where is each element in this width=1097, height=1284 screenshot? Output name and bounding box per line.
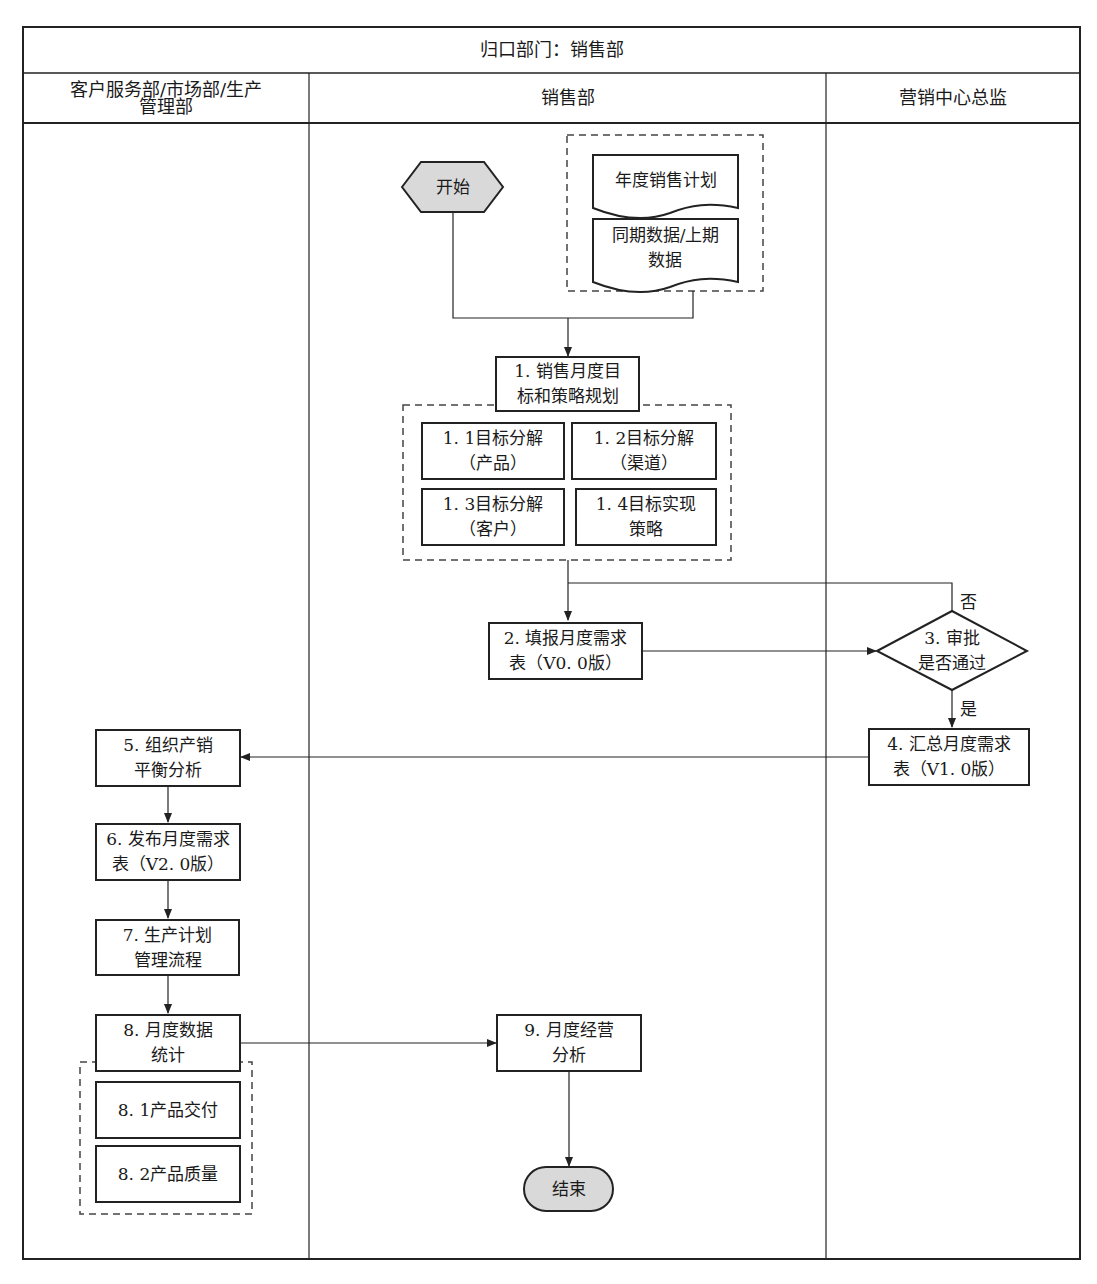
step1-3-node[interactable]: 1. 3目标分解 （客户） — [421, 488, 565, 546]
step1-2-node[interactable]: 1. 2目标分解 （渠道） — [571, 422, 717, 480]
flowchart-canvas: 归口部门：销售部 客户服务部/市场部/生产 管理部 销售部 营销中心总监 开始 … — [0, 0, 1097, 1284]
doc-annual-plan[interactable]: 年度销售计划 — [593, 158, 738, 203]
step3-decision-node[interactable]: 3. 审批 是否通过 — [897, 624, 1007, 678]
step7-node[interactable]: 7. 生产计划 管理流程 — [95, 919, 240, 976]
step8-node[interactable]: 8. 月度数据 统计 — [95, 1014, 241, 1072]
step2-node[interactable]: 2. 填报月度需求 表（V0. 0版） — [488, 622, 643, 680]
step5-node[interactable]: 5. 组织产销 平衡分析 — [95, 729, 241, 787]
step6-node[interactable]: 6. 发布月度需求 表（V2. 0版） — [95, 823, 241, 881]
step1-4-node[interactable]: 1. 4目标实现 策略 — [575, 488, 717, 546]
step8-1-node[interactable]: 8. 1产品交付 — [95, 1081, 241, 1139]
step8-2-node[interactable]: 8. 2产品质量 — [95, 1145, 241, 1203]
step4-node[interactable]: 4. 汇总月度需求 表（V1. 0版） — [868, 728, 1030, 786]
lane-header-sales: 销售部 — [309, 73, 826, 123]
edge-step3-no-loop — [568, 583, 952, 612]
edge-label-yes: 是 — [960, 695, 977, 720]
step9-node[interactable]: 9. 月度经营 分析 — [496, 1014, 642, 1072]
lane-header-marketing-director: 营销中心总监 — [826, 73, 1080, 123]
doc-history-data[interactable]: 同期数据/上期 数据 — [593, 221, 738, 275]
department-title: 归口部门：销售部 — [23, 27, 1080, 73]
start-node[interactable]: 开始 — [402, 162, 503, 212]
edge-label-no: 否 — [960, 588, 977, 613]
end-node[interactable]: 结束 — [524, 1167, 613, 1211]
step1-node[interactable]: 1. 销售月度目 标和策略规划 — [495, 356, 640, 412]
lane-header-customer-service: 客户服务部/市场部/生产 管理部 — [23, 73, 309, 123]
step1-1-node[interactable]: 1. 1目标分解 （产品） — [421, 422, 565, 480]
